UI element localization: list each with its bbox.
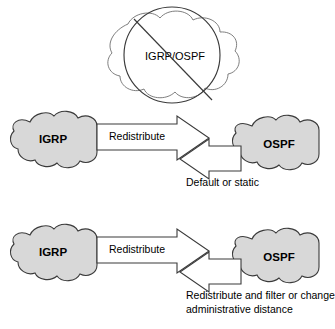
caption-redistribute-filter-line-1: Redistribute and filter or change — [186, 289, 335, 301]
section-redistribute-filter: IGRP OSPF Redistribute Redistribute and … — [11, 224, 335, 314]
caption-redistribute-filter-line-2: administrative distance — [186, 303, 293, 315]
caption-default-or-static: Default or static — [186, 176, 259, 188]
cloud-label-ospf-bottom: OSPF — [263, 251, 294, 263]
cloud-label-igrp-middle: IGRP — [39, 133, 67, 145]
cloud-label-combined: IGRP/OSPF — [145, 50, 205, 62]
section-prohibited-cloud: IGRP/OSPF — [108, 7, 239, 103]
cloud-label-igrp-bottom: IGRP — [39, 246, 67, 258]
arrow-label-redistribute-bottom: Redistribute — [109, 243, 165, 255]
arrow-label-redistribute-middle: Redistribute — [109, 130, 165, 142]
cloud-label-ospf-middle: OSPF — [263, 138, 294, 150]
network-redistribution-diagram: IGRP/OSPF IGRP OSPF Redistribute Default… — [0, 0, 335, 329]
section-default-or-static: IGRP OSPF Redistribute Default or static — [11, 111, 319, 187]
